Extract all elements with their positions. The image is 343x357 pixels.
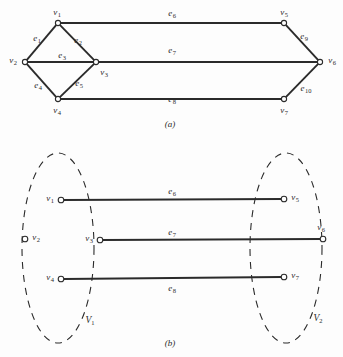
panel-b-ellipse-group [22,153,322,343]
panel-a-vertex-v4 [55,96,60,101]
panel-a-edge-e10-label: e10 [301,84,312,93]
panel-a-vertex-v6 [317,59,322,64]
panel-b-vertex-v3-label: v3 [85,234,92,243]
panel-a-vertex-v6-label: v6 [328,56,335,65]
panel-a-vertex-v5-label: v5 [280,8,287,17]
panel-b-vertex-v7 [281,274,287,280]
panel-b-edge-e6 [64,199,281,200]
panel-a-vertex-v2-label: v2 [9,56,16,65]
panel-b-vertex-v7-label: v7 [291,271,298,280]
panel-b-edge-e8-label: e8 [168,284,175,293]
panel-b-vertex-v5 [281,196,287,202]
panel-b-vertex-v5-label: v5 [291,193,298,202]
panel-a-vertex-v5 [281,20,286,25]
panel-b-set-ellipse-V1 [22,153,94,343]
panel-a-edge-e7-label: e7 [168,46,175,55]
panel-b-vertex-v1 [58,197,64,203]
panel-a-edge-e4-label: e4 [34,81,41,90]
panel-a-vertex-v1-label: v1 [53,8,60,17]
panel-a-vertex-v1 [55,20,60,25]
panel-b-caption: (b) [165,338,176,348]
panel-b-set-label-V2: V2 [313,313,322,323]
panel-a-edge-group [27,23,319,99]
panel-a-edge-e8-label: e8 [168,95,175,104]
graph-bipartite-figure: e1e2e3e4e5e6e7e8e9e10v1v2v3v4v5v6v7V1V2e… [0,0,343,357]
panel-b-vertex-v2 [22,236,28,242]
panel-a-edge-e9-label: e9 [300,32,307,41]
panel-a-edge-e3-label: e3 [58,51,65,60]
panel-b-vertex-v4 [58,276,64,282]
panel-b-vertex-v4-label: v4 [46,273,53,282]
panel-a-edge-e1-label: e1 [33,34,40,43]
panel-b-vertex-v2-label: v2 [32,233,39,242]
panel-a-edge-e1 [27,25,57,60]
panel-b-edge-e8 [64,277,281,279]
panel-b-edge-e6-label: e6 [168,187,175,196]
panel-b-set-ellipse-V2 [250,153,322,343]
panel-b-vertex-v6-label: v6 [317,223,324,232]
panel-b-vertex-v3 [97,237,103,243]
panel-a-vertex-v7 [281,96,286,101]
panel-a-vertex-v7-label: v7 [280,106,287,115]
panel-a-caption: (a) [165,119,176,129]
panel-b-vertex-v1-label: v1 [46,194,53,203]
panel-a-vertex-v4-label: v4 [53,106,60,115]
panel-a-vertex-v3-label: v3 [100,68,107,77]
panel-a-edge-e5-label: e5 [75,79,82,88]
panel-a-vertex-v3 [93,59,98,64]
panel-b-edge-e7 [103,239,320,240]
panel-b-set-label-V1: V1 [85,315,94,325]
panel-a-vertex-v2 [22,59,27,64]
panel-a-edge-e2-label: e2 [74,36,81,45]
panel-b-vertex-v6 [320,236,326,242]
panel-b-edge-e7-label: e7 [168,228,175,237]
panel-a-edge-e6-label: e6 [168,9,175,18]
